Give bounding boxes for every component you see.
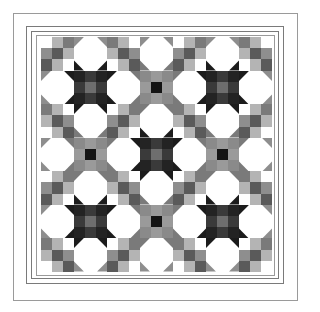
star-square: [228, 160, 239, 171]
patch-square: [184, 250, 195, 261]
octagon-snowball: [74, 171, 107, 205]
snowball-octagon-block: [74, 37, 107, 71]
star-square: [206, 205, 217, 216]
patch-square: [63, 171, 74, 182]
patch-square: [184, 115, 195, 126]
patch-square: [184, 127, 195, 138]
octagon-snowball: [140, 171, 173, 205]
patch-square: [195, 104, 206, 115]
patch-square: [184, 59, 195, 70]
patch-square: [107, 194, 118, 205]
patch-square: [261, 115, 272, 126]
snowball-octagon-block: [239, 71, 272, 105]
nine-patch-block: [107, 171, 140, 205]
dark-star-center-block: [206, 71, 239, 105]
patch-square: [129, 238, 140, 249]
patch-square: [118, 48, 129, 59]
octagon-snowball: [74, 104, 107, 138]
patch-square: [107, 104, 118, 115]
patch-square: [239, 194, 250, 205]
snowball-octagon-block: [239, 205, 272, 239]
patch-square: [52, 104, 63, 115]
star-square: [140, 227, 151, 238]
star-square: [206, 227, 217, 238]
patch-square: [118, 261, 129, 272]
octagon-snowball: [107, 205, 140, 239]
patch-square: [52, 37, 63, 48]
octagon-snowball: [74, 37, 107, 71]
nine-patch-block: [239, 104, 272, 138]
star-square: [162, 93, 173, 104]
patch-square: [195, 250, 206, 261]
patch-square: [173, 194, 184, 205]
star-square: [85, 138, 96, 149]
patch-square: [118, 37, 129, 48]
octagon-snowball: [206, 238, 239, 272]
patch-square: [129, 194, 140, 205]
patch-square: [250, 127, 261, 138]
patch-square: [107, 59, 118, 70]
patch-square: [107, 238, 118, 249]
patch-square: [261, 48, 272, 59]
octagon-snowball: [239, 71, 272, 105]
patch-square: [52, 127, 63, 138]
star-square: [162, 82, 173, 93]
patch-square: [63, 261, 74, 272]
patch-square: [250, 261, 261, 272]
patch-square: [118, 194, 129, 205]
patch-square: [239, 37, 250, 48]
patch-square: [250, 250, 261, 261]
patch-square: [63, 104, 74, 115]
patch-square: [195, 238, 206, 249]
star-square: [217, 82, 228, 93]
snowball-octagon-block: [140, 104, 173, 138]
octagon-snowball: [140, 37, 173, 71]
patch-square: [261, 37, 272, 48]
star-square: [96, 82, 107, 93]
patch-square: [41, 182, 52, 193]
star-square: [151, 205, 162, 216]
patch-square: [195, 59, 206, 70]
patch-square: [63, 37, 74, 48]
patch-square: [261, 250, 272, 261]
patch-square: [52, 238, 63, 249]
patch-square: [118, 115, 129, 126]
snowball-octagon-block: [140, 238, 173, 272]
star-square: [74, 71, 85, 82]
star-square: [162, 160, 173, 171]
snowball-octagon-block: [239, 138, 272, 172]
star-square: [151, 216, 162, 227]
patch-square: [129, 48, 140, 59]
patch-square: [107, 127, 118, 138]
patch-square: [261, 171, 272, 182]
star-square: [85, 71, 96, 82]
star-square: [74, 138, 85, 149]
patch-square: [261, 59, 272, 70]
star-square: [151, 227, 162, 238]
nine-patch-block: [239, 171, 272, 205]
patch-square: [118, 250, 129, 261]
star-square: [96, 227, 107, 238]
snowball-octagon-block: [206, 37, 239, 71]
snowball-octagon-block: [140, 171, 173, 205]
star-square: [162, 71, 173, 82]
star-square: [162, 227, 173, 238]
nine-patch-block: [173, 37, 206, 71]
patch-square: [41, 48, 52, 59]
patch-square: [184, 171, 195, 182]
patch-square: [52, 261, 63, 272]
star-square: [96, 71, 107, 82]
star-square: [96, 216, 107, 227]
patch-square: [184, 104, 195, 115]
dark-star-center-block: [74, 71, 107, 105]
patch-square: [250, 59, 261, 70]
octagon-snowball: [206, 37, 239, 71]
patch-square: [107, 115, 118, 126]
nine-patch-block: [41, 37, 74, 71]
patch-square: [118, 238, 129, 249]
star-square: [228, 227, 239, 238]
snowball-octagon-block: [173, 71, 206, 105]
star-square: [162, 138, 173, 149]
star-square: [140, 82, 151, 93]
octagon-snowball: [41, 71, 74, 105]
